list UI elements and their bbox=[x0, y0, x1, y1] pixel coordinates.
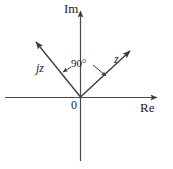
figure-canvas bbox=[0, 0, 173, 169]
vector-jz-label: jz bbox=[36, 62, 44, 74]
angle-leader-right bbox=[93, 65, 106, 76]
complex-plane-figure: Im Re 0 jz z 90° bbox=[0, 0, 173, 169]
origin-label: 0 bbox=[71, 99, 77, 111]
angle-leader-left bbox=[63, 67, 71, 72]
vector-z-line bbox=[81, 51, 131, 97]
angle-annotation-label: 90° bbox=[71, 58, 86, 69]
real-axis-label: Re bbox=[140, 101, 154, 114]
imaginary-axis-label: Im bbox=[64, 2, 78, 15]
vector-z-label: z bbox=[114, 53, 119, 65]
